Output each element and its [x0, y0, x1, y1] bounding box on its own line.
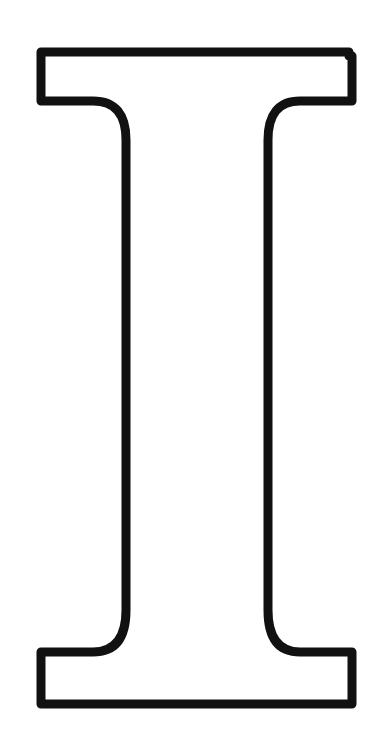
letter-i-outline	[41, 52, 352, 704]
outline-letter-i-icon	[0, 0, 379, 749]
letter-canvas: I	[0, 0, 379, 749]
